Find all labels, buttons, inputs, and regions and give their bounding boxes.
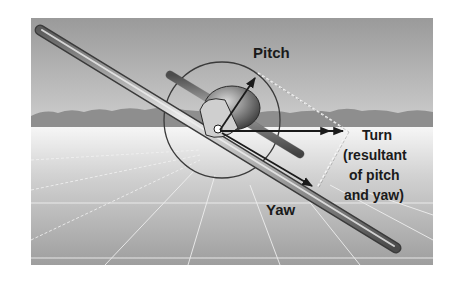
turn-label-line4: and yaw) — [344, 187, 404, 203]
turn-forces-diagram: Pitch Turn (resultant of pitch and yaw) … — [0, 0, 458, 288]
turn-label-line1: Turn — [362, 127, 392, 143]
pitch-label: Pitch — [253, 44, 290, 61]
yaw-label: Yaw — [266, 201, 296, 218]
turn-label-line2: (resultant — [343, 147, 407, 163]
turn-label-line3: of pitch — [349, 167, 400, 183]
